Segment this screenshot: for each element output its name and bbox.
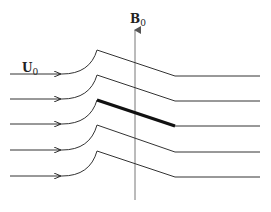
current-sheet xyxy=(97,100,175,126)
streamline xyxy=(58,151,260,177)
streamline xyxy=(58,50,260,76)
streamline xyxy=(58,125,260,152)
streamline xyxy=(58,75,260,101)
field-label: B0 xyxy=(130,13,146,28)
velocity-label: U0 xyxy=(22,62,38,77)
flow-diagram xyxy=(0,0,271,212)
